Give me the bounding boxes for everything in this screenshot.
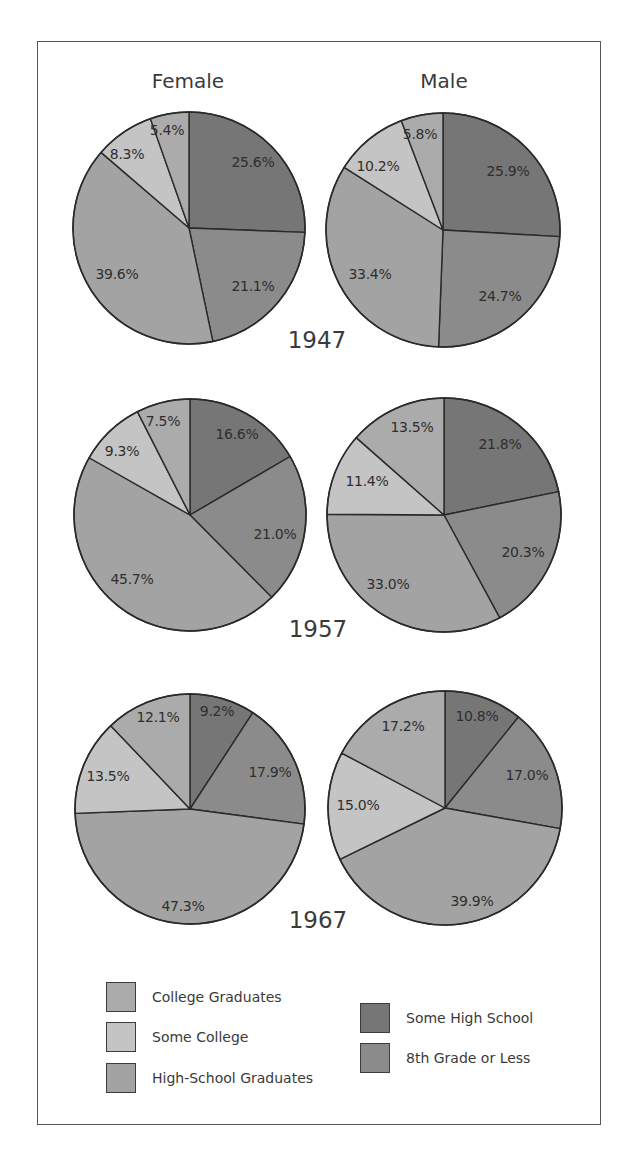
slice-value-label: 39.9% <box>451 893 494 909</box>
slice-value-label: 33.4% <box>349 266 392 282</box>
legend-label: 8th Grade or Less <box>406 1050 530 1066</box>
slice-value-label: 12.1% <box>137 709 180 725</box>
year-label-1957: 1957 <box>289 616 348 642</box>
slice-value-label: 24.7% <box>479 288 522 304</box>
legend-swatch-eighth-grade-or-less <box>360 1043 390 1073</box>
slice-value-label: 21.1% <box>232 278 275 294</box>
slice-value-label: 13.5% <box>391 419 434 435</box>
slice-value-label: 17.9% <box>249 764 292 780</box>
legend-swatch-some-high-school <box>360 1003 390 1033</box>
legend-swatch-some-college <box>106 1022 136 1052</box>
pie-female-1947: 25.6%21.1%39.6%8.3%5.4% <box>73 112 305 344</box>
slice-value-label: 45.7% <box>111 571 154 587</box>
legend-label: High-School Graduates <box>152 1070 313 1086</box>
legend-label: College Graduates <box>152 989 282 1005</box>
slice-value-label: 11.4% <box>346 473 389 489</box>
slice-value-label: 17.0% <box>506 767 549 783</box>
slice-value-label: 7.5% <box>146 413 180 429</box>
slice-value-label: 13.5% <box>87 768 130 784</box>
slice-value-label: 17.2% <box>382 718 425 734</box>
slice-value-label: 25.9% <box>487 163 530 179</box>
pie-slice-eighth-grade-or-less <box>189 112 305 232</box>
slice-value-label: 20.3% <box>502 544 545 560</box>
slice-value-label: 39.6% <box>96 266 139 282</box>
slice-value-label: 33.0% <box>367 576 410 592</box>
legend-item-some-college: Some College <box>106 1021 248 1053</box>
legend-item-high-school-graduates: High-School Graduates <box>106 1062 313 1094</box>
pie-male-1957: 21.8%20.3%33.0%11.4%13.5% <box>327 398 561 632</box>
slice-value-label: 10.2% <box>357 158 400 174</box>
legend-swatch-college-graduates <box>106 982 136 1012</box>
slice-value-label: 8.3% <box>110 146 144 162</box>
pie-chart-grid: Female Male 25.6%21.1%39.6%8.3%5.4% 25.9… <box>0 0 625 1157</box>
slice-value-label: 10.8% <box>456 708 499 724</box>
slice-value-label: 21.0% <box>254 526 297 542</box>
slice-value-label: 15.0% <box>337 797 380 813</box>
slice-value-label: 25.6% <box>232 154 275 170</box>
slice-value-label: 47.3% <box>162 898 205 914</box>
legend-label: Some High School <box>406 1010 533 1026</box>
slice-value-label: 5.4% <box>150 122 184 138</box>
pie-male-1967: 10.8%17.0%39.9%15.0%17.2% <box>328 691 562 925</box>
year-label-1947: 1947 <box>288 327 347 353</box>
year-label-1967: 1967 <box>289 907 348 933</box>
legend-item-college-graduates: College Graduates <box>106 981 282 1013</box>
column-title-female: Female <box>152 69 224 93</box>
slice-value-label: 16.6% <box>216 426 259 442</box>
legend-item-eighth-grade-or-less: 8th Grade or Less <box>360 1042 530 1074</box>
column-title-male: Male <box>420 69 467 93</box>
legend-label: Some College <box>152 1029 248 1045</box>
legend-item-some-high-school: Some High School <box>360 1002 533 1034</box>
pie-female-1957: 16.6%21.0%45.7%9.3%7.5% <box>74 399 306 631</box>
slice-value-label: 21.8% <box>479 436 522 452</box>
legend-swatch-high-school-graduates <box>106 1063 136 1093</box>
slice-value-label: 9.2% <box>200 703 234 719</box>
slice-value-label: 9.3% <box>105 443 139 459</box>
pie-male-1947: 25.9%24.7%33.4%10.2%5.8% <box>326 113 560 347</box>
slice-value-label: 5.8% <box>403 126 437 142</box>
pie-female-1967: 9.2%17.9%47.3%13.5%12.1% <box>75 694 305 924</box>
